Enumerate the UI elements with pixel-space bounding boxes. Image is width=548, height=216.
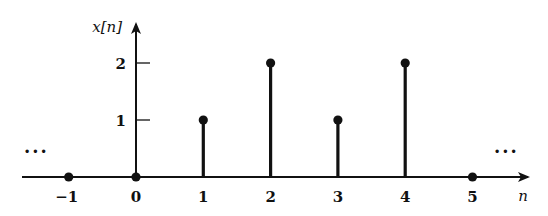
- x-tick-label: 4: [400, 188, 410, 206]
- x-tick-labels: −1012345: [55, 188, 478, 206]
- stem-marker: [266, 58, 275, 67]
- left-ellipsis: ···: [24, 141, 49, 162]
- stem-marker: [333, 115, 342, 124]
- stem-marker: [468, 172, 477, 181]
- x-tick-label: 3: [333, 188, 343, 206]
- x-tick-label: 1: [198, 188, 208, 206]
- y-tick-label: 2: [116, 55, 126, 73]
- x-tick-label: −1: [55, 188, 78, 206]
- stem-marker: [64, 172, 73, 181]
- stems: [64, 58, 477, 181]
- right-ellipsis: ···: [494, 141, 519, 162]
- x-tick-label: 5: [467, 188, 477, 206]
- stem-marker: [131, 172, 140, 181]
- x-tick-label: 0: [131, 188, 141, 206]
- x-axis-label: n: [518, 187, 528, 205]
- x-tick-label: 2: [265, 188, 275, 206]
- y-tick-label: 1: [116, 112, 126, 130]
- stem-marker: [401, 58, 410, 67]
- stem-marker: [199, 115, 208, 124]
- stem-plot: 12 −1012345 x[n] n ··· ···: [0, 0, 548, 216]
- y-ticks: 12: [116, 55, 150, 130]
- y-axis-label: x[n]: [92, 18, 122, 36]
